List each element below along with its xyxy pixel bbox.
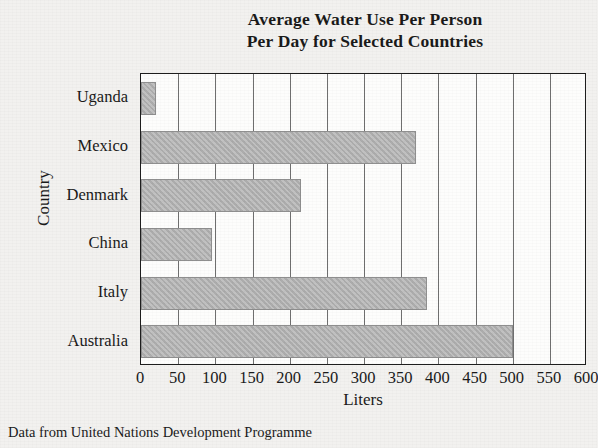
bar-australia (141, 325, 513, 358)
chart-title: Average Water Use Per Person Per Day for… (150, 8, 580, 52)
y-tick-label-italy: Italy (98, 282, 128, 302)
y-tick-label-mexico: Mexico (78, 136, 128, 156)
source-note: Data from United Nations Development Pro… (8, 424, 312, 441)
x-tick-label: 50 (169, 368, 186, 388)
bar-italy (141, 277, 427, 310)
x-axis-tick-labels: 050100150200250300350400450500550600 (0, 368, 597, 392)
bar-row (141, 179, 585, 212)
x-tick-label: 100 (202, 368, 227, 388)
plot-area (140, 73, 586, 365)
x-tick-label: 350 (388, 368, 413, 388)
bar-row (141, 131, 585, 164)
bar-uganda (141, 82, 156, 115)
y-tick-label-denmark: Denmark (67, 185, 128, 205)
bar-row (141, 228, 585, 261)
x-tick-label: 400 (425, 368, 450, 388)
chart-title-line-2: Per Day for Selected Countries (150, 30, 580, 52)
y-tick-label-australia: Australia (68, 331, 128, 351)
x-axis-title: Liters (140, 390, 586, 410)
y-tick-label-uganda: Uganda (77, 87, 128, 107)
bar-row (141, 82, 585, 115)
x-tick-label: 600 (574, 368, 598, 388)
x-tick-label: 150 (239, 368, 264, 388)
bar-china (141, 228, 212, 261)
x-tick-label: 550 (536, 368, 561, 388)
x-tick-label: 500 (499, 368, 524, 388)
bar-denmark (141, 179, 301, 212)
x-tick-label: 250 (313, 368, 338, 388)
y-tick-label-china: China (89, 233, 128, 253)
chart-title-line-1: Average Water Use Per Person (150, 8, 580, 30)
x-tick-label: 200 (276, 368, 301, 388)
x-tick-label: 450 (462, 368, 487, 388)
y-axis-tick-labels: UgandaMexicoDenmarkChinaItalyAustralia (0, 73, 134, 365)
bar-row (141, 325, 585, 358)
bar-row (141, 277, 585, 310)
bars-layer (141, 74, 585, 364)
x-tick-label: 300 (351, 368, 376, 388)
bar-mexico (141, 131, 416, 164)
x-tick-label: 0 (136, 368, 144, 388)
